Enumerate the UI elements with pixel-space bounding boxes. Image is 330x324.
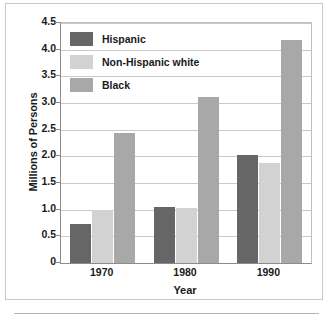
bar-black-1980 <box>198 97 219 263</box>
y-axis-tick-label: 2.0 <box>16 148 56 160</box>
y-axis-tick-label: 4.5 <box>16 15 56 27</box>
bottom-rule <box>14 313 319 314</box>
y-axis-tick-label: 4.0 <box>16 42 56 54</box>
bar-hispanic-1990 <box>237 155 258 263</box>
chart-figure: Millions of Persons Year 00.51.01.52.02.… <box>0 0 330 324</box>
bar-hispanic-1980 <box>154 207 175 263</box>
gridline <box>61 130 311 131</box>
x-axis-title: Year <box>60 284 310 296</box>
bar-non-hispanic-white-1970 <box>92 210 113 263</box>
gridline <box>61 156 311 157</box>
bar-hispanic-1970 <box>70 224 91 263</box>
legend-swatch-icon <box>70 32 93 46</box>
legend-item-black: Black <box>70 75 230 95</box>
y-axis-tick-label: 2.5 <box>16 122 56 134</box>
bar-non-hispanic-white-1980 <box>176 208 197 263</box>
y-axis-tick-label: 1.0 <box>16 202 56 214</box>
bar-black-1990 <box>281 40 302 263</box>
legend-item-non-hispanic-white: Non-Hispanic white <box>70 52 230 72</box>
y-axis-title: Millions of Persons <box>27 62 39 222</box>
legend-label: Hispanic <box>102 33 146 45</box>
x-axis-tick-label-1980: 1980 <box>150 266 220 278</box>
legend-label: Non-Hispanic white <box>102 56 199 68</box>
y-axis-tick-label: 3.5 <box>16 68 56 80</box>
gridline <box>61 103 311 104</box>
legend-swatch-icon <box>70 78 93 92</box>
chart-legend: HispanicNon-Hispanic whiteBlack <box>70 29 230 98</box>
bar-non-hispanic-white-1990 <box>259 163 280 263</box>
y-axis-tick-label: 0.5 <box>16 228 56 240</box>
x-axis-tick-label-1990: 1990 <box>233 266 303 278</box>
gridline <box>61 23 311 24</box>
x-axis-tick-label-1970: 1970 <box>67 266 137 278</box>
y-axis-tick-label: 3.0 <box>16 95 56 107</box>
legend-swatch-icon <box>70 55 93 69</box>
legend-item-hispanic: Hispanic <box>70 29 230 49</box>
y-axis-tick-label: 0 <box>16 255 56 267</box>
legend-label: Black <box>102 79 130 91</box>
bar-black-1970 <box>114 133 135 263</box>
y-axis-tick-label: 1.5 <box>16 175 56 187</box>
